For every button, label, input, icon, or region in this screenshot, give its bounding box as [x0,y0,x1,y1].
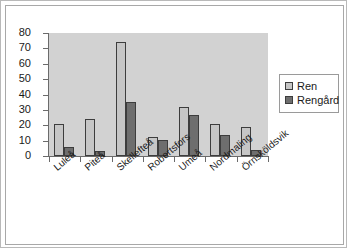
legend-swatch-rengard-icon [285,96,293,104]
bar-ren [85,119,95,156]
chart-legend: Ren Rengård [279,74,339,113]
y-axis-label: 70 [1,42,31,53]
x-axis-tick [112,157,113,162]
x-axis-tick [49,157,50,162]
y-axis-tick [43,141,48,142]
y-axis-tick [43,79,48,80]
y-axis-label: 20 [1,119,31,130]
x-axis-tick [174,157,175,162]
x-axis-tick [143,157,144,162]
plot-area-wrapper [49,33,268,156]
x-axis-tick [80,157,81,162]
x-axis-tick [268,157,269,162]
y-axis-line [48,33,49,157]
y-axis-label: 0 [1,150,31,161]
bar-ren [210,124,220,156]
chart-card: 01020304050607080 LuleåPiteåSkellefteåRo… [0,0,347,248]
y-axis-tick [43,110,48,111]
y-axis-tick [43,33,48,34]
bar-ren [116,42,126,156]
legend-label-ren: Ren [297,81,317,92]
x-axis-tick [205,157,206,162]
legend-item-rengard: Rengård [285,93,334,107]
legend-item-ren: Ren [285,79,334,93]
y-axis-label: 50 [1,73,31,84]
y-axis-tick [43,156,48,157]
y-axis-tick [43,48,48,49]
y-axis-label: 80 [1,27,31,38]
y-axis-tick [43,64,48,65]
plot-background [49,33,268,156]
chart-card-inner-frame: 01020304050607080 LuleåPiteåSkellefteåRo… [5,5,344,245]
legend-swatch-ren-icon [285,82,293,90]
legend-label-rengard: Rengård [297,95,339,106]
x-axis-tick [237,157,238,162]
y-axis-label: 40 [1,89,31,100]
y-axis-label: 10 [1,135,31,146]
y-axis-label: 60 [1,58,31,69]
y-axis-tick [43,125,48,126]
y-axis-tick [43,95,48,96]
y-axis-label: 30 [1,104,31,115]
bar-ren [54,124,64,156]
